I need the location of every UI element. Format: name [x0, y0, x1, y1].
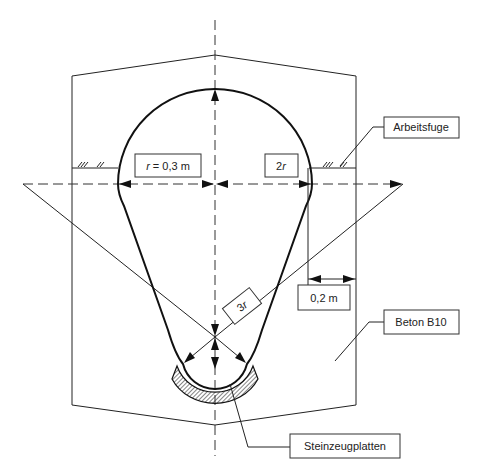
wall-arrow-left-icon	[309, 275, 321, 283]
construction-joint-right	[309, 162, 356, 168]
sewer-profile-diagram: r = 0,3 m 2r 3r 0,2 m Arbeitsfuge Beton …	[0, 0, 479, 474]
wall-arrow-right-icon	[343, 275, 355, 283]
r-arrow-left-icon	[119, 180, 131, 188]
bottom-arrow-icon	[211, 357, 219, 369]
construction-joint-left	[72, 162, 118, 168]
construction-line-left	[23, 184, 215, 337]
svg-text:r = 0,3 m: r = 0,3 m	[146, 160, 190, 172]
top-arrow-icon	[211, 89, 219, 101]
wall-thickness-label: 0,2 m	[298, 285, 350, 310]
construction-joint-callout: Arbeitsfuge	[340, 117, 459, 166]
radius-arrow-left-icon	[184, 352, 195, 363]
2r-arrow-left-icon	[216, 180, 228, 188]
triple-radius-label: 3r	[222, 288, 261, 325]
svg-text:2r: 2r	[276, 160, 287, 172]
radius-label: r = 0,3 m	[135, 154, 201, 177]
svg-text:0,2 m: 0,2 m	[310, 292, 338, 304]
svg-text:Arbeitsfuge: Arbeitsfuge	[393, 121, 449, 133]
lining-callout: Steinzeugplatten	[230, 384, 400, 458]
r-arrow-right-icon	[202, 180, 214, 188]
svg-text:Steinzeugplatten: Steinzeugplatten	[304, 440, 386, 452]
radius-arrow-right-icon	[235, 352, 246, 363]
concrete-block-outline	[72, 55, 356, 425]
double-radius-label: 2r	[265, 154, 298, 177]
svg-text:Beton B10: Beton B10	[395, 316, 446, 328]
axis-arrow-icon	[390, 180, 403, 188]
2r-arrow-right-icon	[299, 180, 311, 188]
concrete-callout: Beton B10	[335, 310, 459, 361]
